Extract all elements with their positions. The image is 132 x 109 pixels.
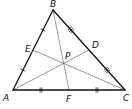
median-b-to-f: [53, 10, 69, 90]
vertex-label-c: C: [123, 93, 130, 103]
vertex-label-a: A: [2, 93, 9, 103]
centroid-label-p: P: [65, 51, 71, 61]
midpoint-label-f: F: [66, 94, 72, 104]
vertex-label-b: B: [50, 0, 56, 9]
median-c-to-e: [33, 50, 125, 90]
side-bc: [53, 10, 125, 90]
median-a-to-d: [13, 50, 89, 90]
side-ab: [13, 10, 53, 90]
triangle-diagram: A B C E D F P: [0, 0, 132, 109]
midpoint-label-d: D: [92, 40, 99, 50]
midpoint-label-e: E: [25, 44, 31, 54]
